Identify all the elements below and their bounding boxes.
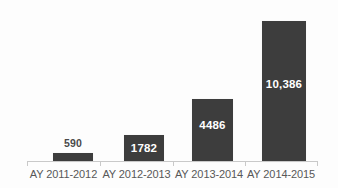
x-axis-tick-label: AY 2011-2012 xyxy=(27,166,100,182)
x-axis-tick-labels: AY 2011-2012 AY 2012-2013 AY 2013-2014 A… xyxy=(0,166,338,188)
bar-value-label: 590 xyxy=(53,138,93,149)
bar-value-label: 4486 xyxy=(192,120,233,132)
bar-group: 590 xyxy=(53,0,93,162)
bar-group: 1782 xyxy=(124,0,164,162)
x-axis-tick-label: AY 2012-2013 xyxy=(100,166,173,182)
x-axis-tick-label: AY 2013-2014 xyxy=(173,166,245,182)
plot-area: 590 1782 4486 10,386 xyxy=(0,0,338,162)
bar-value-label: 10,386 xyxy=(262,79,306,91)
bar-value-label: 1782 xyxy=(124,143,164,155)
bar[interactable] xyxy=(262,21,306,162)
bar-group: 4486 xyxy=(192,0,233,162)
bar-group: 10,386 xyxy=(262,0,306,162)
x-axis-tick-label: AY 2014-2015 xyxy=(245,166,317,182)
bar-chart: 590 1782 4486 10,386 AY 2011-2012 AY 201… xyxy=(0,0,338,188)
